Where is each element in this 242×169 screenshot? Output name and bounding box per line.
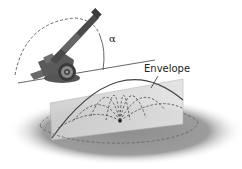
safety-envelope-diagram: [0, 0, 242, 169]
angle-alpha-label: α: [109, 33, 116, 44]
elevation-arc-solid: [100, 36, 104, 70]
origin-point: [118, 119, 122, 123]
envelope-label: Envelope: [144, 63, 190, 74]
